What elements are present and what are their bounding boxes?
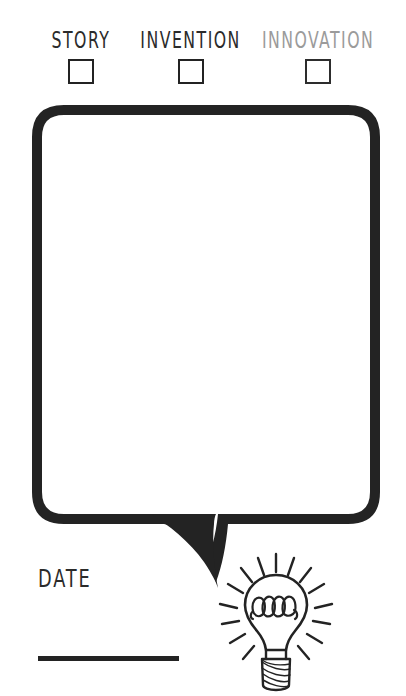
category-invention-label: INVENTION xyxy=(141,28,241,53)
worksheet-page: STORY INVENTION INNOVATION DATE xyxy=(0,0,406,696)
innovation-checkbox[interactable] xyxy=(305,59,331,84)
speech-bubble[interactable] xyxy=(0,96,406,596)
lightbulb-rays xyxy=(220,554,332,659)
category-row: STORY INVENTION INNOVATION xyxy=(0,28,406,90)
lightbulb-icon xyxy=(206,542,346,692)
speech-bubble-shape xyxy=(0,96,406,596)
invention-checkbox[interactable] xyxy=(178,59,204,84)
story-checkbox[interactable] xyxy=(68,59,94,84)
category-invention[interactable]: INVENTION xyxy=(140,28,242,84)
category-story[interactable]: STORY xyxy=(34,28,128,84)
date-label: DATE xyxy=(38,566,217,593)
category-innovation-label: INNOVATION xyxy=(262,28,374,53)
bulb-filament xyxy=(251,597,297,619)
category-innovation[interactable]: INNOVATION xyxy=(252,28,384,84)
lightbulb-drawing xyxy=(206,542,346,692)
date-write-line[interactable] xyxy=(38,656,179,661)
category-story-label: STORY xyxy=(52,28,111,53)
date-field[interactable]: DATE xyxy=(38,566,228,676)
bulb-base xyxy=(262,659,290,690)
